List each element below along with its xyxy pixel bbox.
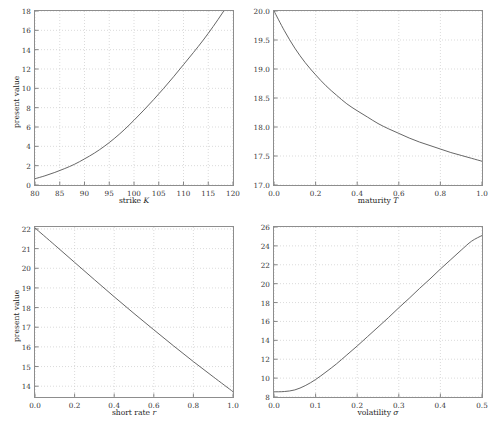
y-tick-label: 18 <box>242 298 270 307</box>
x-tick-label: 90 <box>80 189 89 198</box>
y-tick-label: 20 <box>3 264 31 273</box>
x-tick-label: 0.2 <box>69 401 81 410</box>
xaxis-label-symbol: T <box>393 196 398 205</box>
x-tick-label: 105 <box>152 189 166 198</box>
data-curve <box>35 11 233 179</box>
x-tick-label: 0.2 <box>310 189 322 198</box>
y-tick-label: 18.0 <box>242 123 270 132</box>
y-tick-label: 22 <box>242 260 270 269</box>
y-tick-label: 14 <box>3 382 31 391</box>
y-tick-label: 19.0 <box>242 65 270 74</box>
x-tick-label: 0.8 <box>435 189 447 198</box>
xaxis-label-strike: strike K <box>119 196 149 205</box>
xaxis-label-short-rate: short rate r <box>112 408 156 417</box>
x-tick-label: 120 <box>226 189 240 198</box>
y-tick-label: 10 <box>242 374 270 383</box>
y-tick-label: 26 <box>242 223 270 232</box>
y-tick-label: 2 <box>3 161 31 170</box>
y-tick-label: 0 <box>3 181 31 190</box>
xaxis-label-text: maturity <box>358 196 391 205</box>
xaxis-label-symbol: σ <box>393 408 398 417</box>
y-tick-label: 17.5 <box>242 152 270 161</box>
x-tick-label: 0.5 <box>476 401 488 410</box>
data-curve <box>274 236 482 392</box>
plot-svg-volatility <box>274 227 482 397</box>
y-tick-label: 18.5 <box>242 94 270 103</box>
x-tick-label: 0.0 <box>268 189 280 198</box>
xaxis-label-text: short rate <box>112 408 150 417</box>
plot-area-maturity <box>273 10 483 186</box>
x-tick-label: 0.0 <box>268 401 280 410</box>
y-tick-label: 18 <box>3 7 31 16</box>
y-tick-label: 20.0 <box>242 7 270 16</box>
panel-volatility: 0.00.10.20.30.40.58101214161820222426 vo… <box>247 212 495 423</box>
y-tick-label: 21 <box>3 244 31 253</box>
x-tick-label: 0.4 <box>435 401 447 410</box>
x-tick-label: 110 <box>176 189 190 198</box>
y-tick-label: 16 <box>242 317 270 326</box>
y-tick-label: 19.5 <box>242 36 270 45</box>
x-tick-label: 95 <box>105 189 114 198</box>
yaxis-label-short-rate: present value <box>12 290 21 342</box>
x-tick-label: 0.1 <box>310 401 322 410</box>
x-tick-label: 1.0 <box>476 189 488 198</box>
y-tick-label: 16 <box>3 342 31 351</box>
xaxis-label-symbol: K <box>143 196 149 205</box>
xaxis-label-text: volatility <box>357 408 391 417</box>
panel-short-rate: 0.00.20.40.60.81.0141516171819202122 sho… <box>0 212 248 423</box>
data-curve <box>274 11 482 161</box>
xaxis-label-text: strike <box>119 196 141 205</box>
plot-area-strike <box>34 10 234 186</box>
plot-svg-short-rate <box>35 227 233 397</box>
plot-svg-strike <box>35 11 233 185</box>
plot-area-volatility <box>273 226 483 398</box>
x-tick-label: 1.0 <box>227 401 239 410</box>
yaxis-label-strike: present value <box>12 76 21 128</box>
y-tick-label: 17.0 <box>242 181 270 190</box>
x-tick-label: 0.0 <box>29 401 41 410</box>
y-tick-label: 16 <box>3 26 31 35</box>
y-tick-label: 8 <box>242 393 270 402</box>
y-tick-label: 14 <box>242 336 270 345</box>
xaxis-label-symbol: r <box>152 408 156 417</box>
plot-area-short-rate <box>34 226 234 398</box>
x-tick-label: 85 <box>55 189 64 198</box>
x-tick-label: 0.8 <box>188 401 200 410</box>
y-tick-label: 12 <box>3 65 31 74</box>
figure-canvas: 80859095100105110115120024681012141618 s… <box>0 0 495 423</box>
y-tick-label: 15 <box>3 362 31 371</box>
y-tick-label: 22 <box>3 224 31 233</box>
xaxis-label-volatility: volatility σ <box>357 408 398 417</box>
x-tick-label: 80 <box>30 189 39 198</box>
y-tick-label: 20 <box>242 279 270 288</box>
plot-svg-maturity <box>274 11 482 185</box>
data-curve <box>35 228 233 392</box>
y-tick-label: 24 <box>242 241 270 250</box>
panel-maturity: 0.00.20.40.60.81.017.017.518.018.519.019… <box>247 0 495 212</box>
y-tick-label: 14 <box>3 45 31 54</box>
x-tick-label: 115 <box>201 189 215 198</box>
xaxis-label-maturity: maturity T <box>358 196 399 205</box>
y-tick-label: 4 <box>3 142 31 151</box>
panel-strike: 80859095100105110115120024681012141618 s… <box>0 0 248 212</box>
y-tick-label: 12 <box>242 355 270 364</box>
